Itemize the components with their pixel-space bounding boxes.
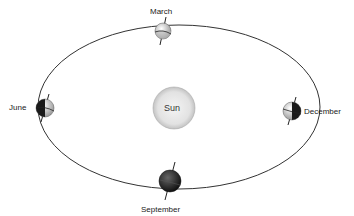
label-december: December	[304, 107, 341, 116]
earth-december	[283, 97, 301, 125]
label-march: March	[150, 7, 172, 16]
label-sun: Sun	[164, 103, 180, 113]
label-september: September	[141, 205, 180, 214]
earth-march	[155, 17, 171, 45]
label-june: June	[9, 103, 26, 112]
earth-september	[159, 162, 181, 200]
